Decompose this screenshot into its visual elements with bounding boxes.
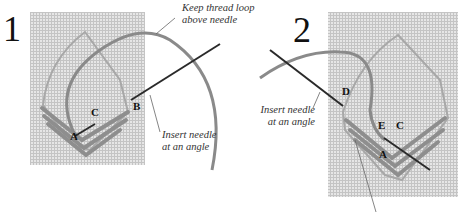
step-2-point-a: A <box>379 148 387 160</box>
caption-line: Keep thread loop <box>182 2 255 14</box>
step-2-point-d: D <box>342 85 350 97</box>
step-1-point-b: B <box>133 100 140 112</box>
step-2-number: 2 <box>293 12 311 48</box>
step-1-leader-needle <box>150 95 160 132</box>
step-2-caption-needle: Insert needle at an angle <box>253 104 315 128</box>
step-1-leader-loop <box>156 18 175 34</box>
caption-line: Insert needle <box>253 104 315 116</box>
step-1-number: 1 <box>3 11 21 47</box>
step-1-point-c: C <box>91 106 99 118</box>
step-1-point-a: A <box>70 130 78 142</box>
step-1-caption-loop: Keep thread loop above needle <box>182 2 255 26</box>
caption-line: Insert needle <box>162 129 217 141</box>
step-1-caption-needle: Insert needle at an angle <box>162 129 217 153</box>
step-2-point-c: C <box>396 119 404 131</box>
caption-line: at an angle <box>253 116 315 128</box>
caption-line: at an angle <box>162 141 217 153</box>
diagram-canvas <box>0 0 466 215</box>
caption-line: above needle <box>182 14 255 26</box>
step-2-point-e: E <box>378 119 385 131</box>
